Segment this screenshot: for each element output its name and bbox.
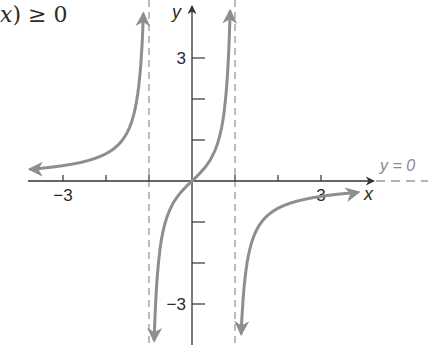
- y-axis-label: y: [170, 2, 182, 22]
- horizontal-asymptote-label: y = 0: [379, 157, 415, 174]
- axes: [28, 6, 374, 345]
- y-tick-label: 3: [177, 49, 186, 68]
- function-graph: −333−3xyy = 0: [0, 0, 428, 345]
- curve-branches: [31, 12, 358, 340]
- right-branch-curve: [241, 192, 357, 333]
- left-branch-curve: [31, 14, 144, 169]
- tick-labels: −333−3xyy = 0: [53, 2, 415, 314]
- y-tick-label: −3: [167, 295, 186, 314]
- x-axis-label: x: [363, 184, 374, 204]
- x-tick-label: −3: [53, 186, 72, 205]
